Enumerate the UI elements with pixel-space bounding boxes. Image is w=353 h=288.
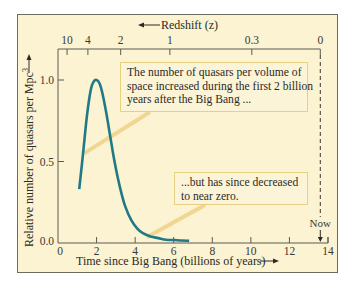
redshift-tick-label: 4 [85,34,91,46]
y-tick-label: 0.5 [40,156,55,168]
redshift-tick-label: 2 [118,34,124,46]
y-tick-label: 0.0 [40,235,55,247]
chart-svg: 024681012140.00.51.0104210.30NowRedshift… [0,0,353,288]
x-tick-label: 0 [57,245,63,257]
x-tick-label: 14 [322,245,334,257]
callout-top-line-3: years after the Big Bang ... [127,93,301,107]
now-label: Now [310,217,331,229]
y-axis-label: Relative number of quasars per Mpc3 [21,68,36,247]
y-tick-label: 1.0 [40,74,55,86]
axis-labels: 024681012140.00.51.0104210.30NowRedshift… [21,18,334,268]
right-arrow-icon [273,259,279,264]
x-axis-label: Time since Big Bang (billions of years) [76,254,266,268]
up-arrow-icon [27,54,32,60]
callout-top-leader [84,112,150,153]
x-tick-label: 12 [284,245,296,257]
callout-increase: The number of quasars per volume of spac… [120,62,308,112]
now-arrow-icon [318,237,323,242]
callout-top-line-2: space increased during the first 2 billi… [127,80,301,94]
callout-top-line-1: The number of quasars per volume of [127,66,301,80]
redshift-tick-label: 0.3 [245,34,260,46]
callout-decrease: ...but has since decreased to near zero. [174,172,308,205]
callout-bottom-line-1: ...but has since decreased [181,176,301,190]
left-arrow-icon [138,23,144,28]
callout-bottom-leader [147,205,205,237]
callout-bottom-line-2: to near zero. [181,190,301,204]
redshift-tick-label: 10 [61,34,73,46]
redshift-tick-label: 0 [317,34,323,46]
redshift-axis-label: Redshift (z) [161,18,218,32]
redshift-tick-label: 1 [167,34,173,46]
